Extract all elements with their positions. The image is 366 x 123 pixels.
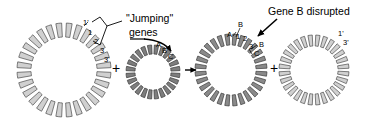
recombinant-plasmid-label-2: 1: [236, 33, 240, 41]
recombinant-plasmid-label-4: 3: [249, 43, 253, 51]
ring-segment: [336, 77, 348, 84]
ring-segment: [56, 23, 63, 37]
diagram-vector-layer: [0, 0, 366, 123]
ring-segment: [308, 35, 313, 46]
transposon-element-label-2: C: [168, 53, 173, 61]
medium-dark-ring: [195, 34, 267, 106]
ring-segment: [321, 36, 328, 48]
ring-segment: [154, 90, 159, 99]
ring-segment: [147, 90, 152, 99]
jumping-genes-label-line1: "Jumping": [126, 13, 173, 24]
ring-segment: [280, 56, 292, 63]
ring-segment: [321, 92, 328, 104]
recombinant-plasmid-label-3: 2: [243, 35, 247, 43]
ring-segment: [66, 102, 73, 116]
recombinant-plasmid-label-1: B: [238, 21, 243, 29]
ring-segment: [171, 66, 180, 71]
ring-segment: [19, 52, 34, 61]
recombinant-plasmid-label-6: C: [254, 50, 259, 58]
ring-segment: [256, 64, 267, 69]
ring-segment: [254, 77, 266, 84]
ring-segment: [195, 71, 206, 76]
recombinant-plasmid-label-0: A: [227, 31, 232, 39]
ring-segment: [46, 100, 55, 115]
ring-segment: [315, 94, 320, 105]
ring-segment: [73, 100, 82, 115]
ring-segment: [195, 64, 206, 69]
ring-segment: [256, 71, 267, 76]
recipient-plasmid-label-3: 3: [100, 47, 104, 55]
residual-plasmid-label-0: 1': [338, 30, 344, 38]
ring-segment: [94, 79, 109, 88]
ring-segment: [300, 92, 307, 104]
ring-segment: [17, 72, 31, 79]
ring-segment: [225, 95, 230, 106]
ring-segment: [308, 94, 313, 105]
ring-segment: [238, 93, 245, 105]
ring-segment: [17, 62, 31, 69]
ring-segment: [232, 95, 237, 106]
jumping-genes-label-line2: genes: [129, 27, 158, 38]
large-light-ring-right: [279, 35, 349, 105]
ring-segment: [279, 64, 290, 69]
ring-segment: [196, 77, 208, 84]
ring-segment: [279, 71, 290, 76]
diagram-canvas: "Jumping" genes Gene B disrupted + + 1'1…: [0, 0, 366, 123]
recipient-plasmid-label-1: 1: [88, 29, 92, 37]
ring-segment: [19, 79, 34, 88]
gene-b-disrupted-arrow: [258, 19, 277, 36]
plus-operator-2: +: [270, 61, 278, 75]
ring-segment: [46, 25, 55, 40]
transposon-element-label-1: B: [162, 47, 167, 55]
recipient-plasmid-label-4: 3': [104, 56, 110, 64]
ring-segment: [66, 23, 73, 37]
ring-segment: [280, 77, 292, 84]
ring-segment: [300, 36, 307, 48]
ring-segment: [126, 66, 135, 71]
recombinant-plasmid-label-5: B: [259, 41, 264, 49]
ring-segment: [338, 64, 349, 69]
plus-operator-1: +: [112, 61, 120, 75]
ring-segment: [56, 102, 63, 116]
ring-group: [17, 23, 349, 117]
ring-segment: [315, 35, 320, 46]
ring-segment: [338, 71, 349, 76]
recipient-plasmid-label-0: 1': [83, 19, 89, 27]
ring-segment: [171, 73, 180, 78]
recipient-plasmid-label-2: 2: [94, 38, 98, 46]
ring-segment: [217, 35, 224, 47]
ring-segment: [147, 45, 152, 54]
ring-segment: [73, 25, 82, 40]
ring-segment: [96, 72, 110, 79]
ring-segment: [217, 93, 224, 105]
ring-segment: [126, 73, 135, 78]
ring-segment: [196, 56, 208, 63]
transposon-element-label-0: A: [156, 41, 161, 49]
gene-b-disrupted-label: Gene B disrupted: [268, 6, 350, 17]
ring-segment: [336, 56, 348, 63]
residual-plasmid-label-1: 3': [343, 39, 349, 47]
